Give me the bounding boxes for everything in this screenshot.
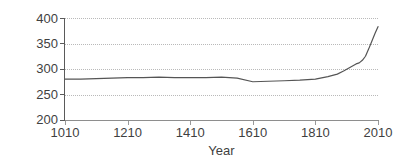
x-axis-title: Year [65, 143, 378, 158]
x-axis-line [65, 120, 379, 121]
y-tick-label-250: 250 [0, 88, 58, 101]
x-tick-label-2010: 2010 [348, 126, 403, 140]
x-tick-label-1810: 1810 [285, 126, 345, 140]
co2-line-chart: CO2 (ppm) 400 350 300 250 200 1010 1210 … [0, 0, 403, 164]
y-tick-label-350: 350 [0, 37, 58, 50]
plot-area [65, 18, 378, 120]
x-tick-label-1410: 1410 [160, 126, 220, 140]
y-tick-label-300: 300 [0, 62, 58, 75]
series-line-co2 [65, 18, 378, 120]
x-tick-label-1210: 1210 [98, 126, 158, 140]
y-tick-label-200: 200 [0, 113, 58, 126]
x-tick-label-1610: 1610 [223, 126, 283, 140]
x-tick-label-1010: 1010 [35, 126, 95, 140]
y-tick-label-400: 400 [0, 12, 58, 25]
